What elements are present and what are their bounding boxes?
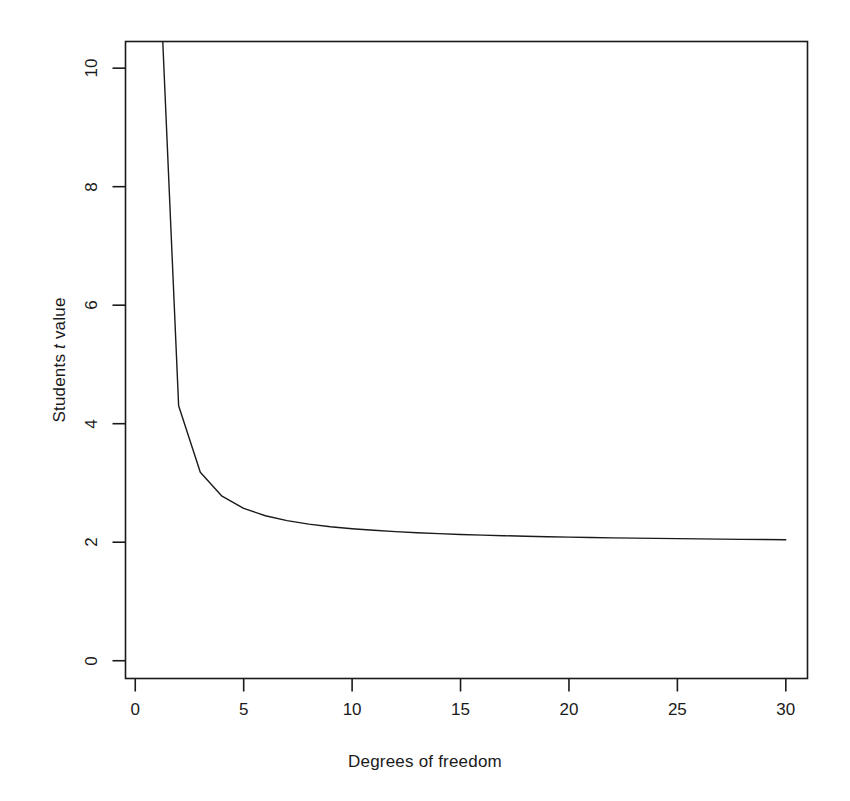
x-tick-label: 30 [766, 700, 806, 720]
plot-frame [126, 42, 808, 679]
y-tick-label: 2 [82, 522, 106, 562]
t-value-curve [157, 0, 786, 540]
x-tick-label: 20 [549, 700, 589, 720]
y-tick-label: 8 [82, 167, 106, 207]
y-tick-label: 10 [82, 48, 106, 88]
x-tick-label: 10 [332, 700, 372, 720]
x-tick-label: 0 [115, 700, 155, 720]
x-tick-label: 25 [657, 700, 697, 720]
x-tick-label: 15 [441, 700, 481, 720]
y-tick-label: 0 [82, 641, 106, 681]
y-axis-ticks [113, 68, 126, 661]
x-tick-label: 5 [224, 700, 264, 720]
y-tick-label: 4 [82, 404, 106, 444]
x-axis-ticks [135, 679, 786, 692]
chart-figure: 051015202530 0246810 Degrees of freedom … [0, 0, 850, 801]
x-axis-title: Degrees of freedom [0, 752, 850, 772]
plot-canvas [0, 0, 850, 801]
y-tick-label: 6 [82, 285, 106, 325]
